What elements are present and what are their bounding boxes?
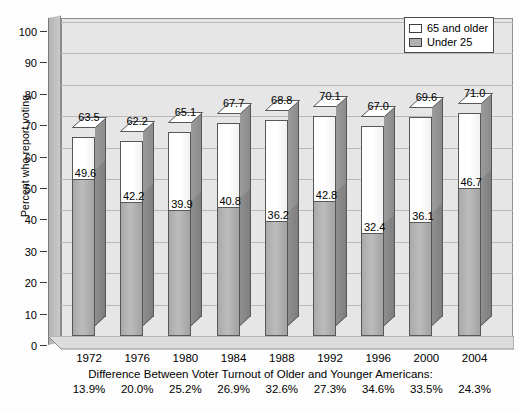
y-axis-tick-label: 40 xyxy=(3,215,37,225)
plot-floor xyxy=(48,336,514,348)
y-axis-tick-label: 20 xyxy=(3,278,37,288)
bar-segment-under25 xyxy=(266,221,287,335)
gridline xyxy=(61,53,513,54)
bar-front-face xyxy=(217,123,240,336)
y-axis-tick-label: 10 xyxy=(3,310,37,320)
difference-value: 25.2% xyxy=(159,383,211,395)
bar-side-face-under25 xyxy=(240,188,251,326)
difference-values: 13.9%20.0%25.2%26.9%32.6%27.3%34.6%33.5%… xyxy=(48,383,514,399)
bar-front-face xyxy=(265,120,288,336)
bar-group[interactable] xyxy=(72,127,106,336)
plot-area: 63.549.662.242.265.139.967.740.868.836.2… xyxy=(48,18,514,348)
bar-segment-older xyxy=(410,118,431,223)
bar-segment-older xyxy=(362,127,383,236)
bar-front-face xyxy=(409,117,432,336)
y-axis-tick-label: 30 xyxy=(3,247,37,257)
bar-inner-label: 39.9 xyxy=(167,198,196,210)
bar-side-face-under25 xyxy=(95,160,106,326)
bar-group[interactable] xyxy=(168,122,202,336)
y-axis-tick-mark xyxy=(40,31,47,32)
bar-total-label: 63.5 xyxy=(66,111,112,123)
difference-value: 24.3% xyxy=(449,383,501,395)
y-axis-tick-mark xyxy=(40,62,47,63)
bar-segment-under25 xyxy=(410,222,431,335)
y-axis-tick-mark xyxy=(40,251,47,252)
bar-total-label: 65.1 xyxy=(162,106,208,118)
y-axis-tick-mark xyxy=(40,188,47,189)
bar-inner-label: 46.7 xyxy=(457,176,486,188)
bar-inner-label: 36.2 xyxy=(264,209,293,221)
legend-item[interactable]: Under 25 xyxy=(409,35,488,49)
bar-group[interactable] xyxy=(458,103,492,336)
bar-total-label: 67.0 xyxy=(355,100,401,112)
difference-value: 27.3% xyxy=(304,383,356,395)
y-axis-tick-label: 90 xyxy=(3,58,37,68)
y-axis-tick-label: 50 xyxy=(3,184,37,194)
legend-label: 65 and older xyxy=(427,23,488,34)
y-axis-tick-mark xyxy=(40,125,47,126)
bar-group[interactable] xyxy=(120,131,154,336)
bar-side-face-under25 xyxy=(191,191,202,326)
bar-total-label: 62.2 xyxy=(114,115,160,127)
y-axis-tick-mark xyxy=(40,314,47,315)
x-axis-label: 1980 xyxy=(161,352,209,364)
bar-inner-label: 42.8 xyxy=(312,189,341,201)
x-axis-label: 1992 xyxy=(306,352,354,364)
bar-side-face-under25 xyxy=(143,184,154,326)
x-axis-label: 2000 xyxy=(402,352,450,364)
x-axis-label: 1988 xyxy=(258,352,306,364)
y-axis-tick-mark xyxy=(40,219,47,220)
x-axis-label: 1976 xyxy=(113,352,161,364)
bar-segment-under25 xyxy=(73,179,94,335)
y-axis-tick-label: 70 xyxy=(3,121,37,131)
bar-segment-under25 xyxy=(362,233,383,335)
legend-label: Under 25 xyxy=(427,37,472,48)
bar-inner-label: 42.2 xyxy=(119,190,148,202)
y-axis-tick-mark xyxy=(40,282,47,283)
y-axis-tick-mark xyxy=(40,345,47,346)
bar-group[interactable] xyxy=(217,113,251,336)
bar-group[interactable] xyxy=(265,110,299,336)
bar-front-face xyxy=(168,132,191,336)
bar-front-face xyxy=(120,141,143,336)
x-axis-label: 1996 xyxy=(354,352,402,364)
legend: 65 and olderUnder 25 xyxy=(404,17,494,53)
bar-total-label: 70.1 xyxy=(307,90,353,102)
bar-segment-under25 xyxy=(314,201,335,335)
bar-inner-label: 32.4 xyxy=(360,221,389,233)
difference-value: 26.9% xyxy=(208,383,260,395)
bar-group[interactable] xyxy=(313,106,347,336)
bar-inner-label: 40.8 xyxy=(216,195,245,207)
bar-inner-label: 36.1 xyxy=(408,210,437,222)
difference-caption: Difference Between Voter Turnout of Olde… xyxy=(0,368,521,380)
plot-left-wall xyxy=(48,15,61,345)
y-axis-tick-mark xyxy=(40,94,47,95)
y-axis-tick-label: 60 xyxy=(3,153,37,163)
bar-segment-under25 xyxy=(459,188,480,335)
bar-total-label: 71.0 xyxy=(452,87,498,99)
bar-total-label: 69.6 xyxy=(403,91,449,103)
bar-total-label: 68.8 xyxy=(259,94,305,106)
y-axis-tick-mark xyxy=(40,157,47,158)
x-axis-label: 1984 xyxy=(210,352,258,364)
legend-swatch-icon xyxy=(409,24,422,33)
bar-total-label: 67.7 xyxy=(211,97,257,109)
x-axis-label: 2004 xyxy=(451,352,499,364)
bar-front-face xyxy=(458,113,481,336)
chart-container: Percent who report voting 10090807060504… xyxy=(0,0,521,412)
x-axis-label: 1972 xyxy=(65,352,113,364)
bar-side-face-under25 xyxy=(336,182,347,326)
difference-value: 34.6% xyxy=(352,383,404,395)
difference-value: 32.6% xyxy=(256,383,308,395)
bar-segment-under25 xyxy=(169,210,190,335)
bar-segment-under25 xyxy=(218,207,239,335)
x-axis-labels: 197219761980198419881992199620002004 xyxy=(48,352,514,368)
bar-group[interactable] xyxy=(409,107,443,336)
y-axis-tick-group: 1009080706050403020100 xyxy=(0,0,48,412)
bar-segment-older xyxy=(266,121,287,223)
y-axis-tick-label: 100 xyxy=(3,27,37,37)
y-axis-tick-label: 0 xyxy=(3,341,37,351)
legend-swatch-icon xyxy=(409,38,422,47)
legend-item[interactable]: 65 and older xyxy=(409,21,488,35)
bar-front-face xyxy=(313,116,336,336)
